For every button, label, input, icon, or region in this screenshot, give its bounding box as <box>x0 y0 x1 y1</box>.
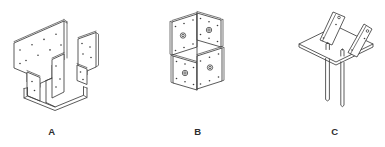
elevated-post-base-drawing-c <box>255 0 385 125</box>
figure-label-b: B <box>188 126 208 137</box>
post-cap-bracket-drawing-a <box>0 0 130 125</box>
hardware-diagram-panel: A B C <box>0 0 385 147</box>
figure-label-a: A <box>42 126 62 137</box>
cross-plate-connector-drawing-b <box>130 0 255 125</box>
a-channel-face <box>52 54 64 98</box>
figure-label-c: C <box>325 126 345 137</box>
c-legs <box>326 59 344 107</box>
